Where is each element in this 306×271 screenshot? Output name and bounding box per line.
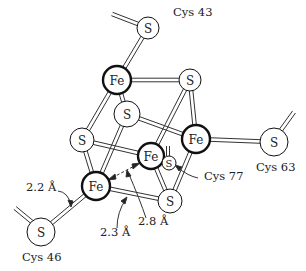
atom-label: S [123,108,131,122]
atom-label: S [166,158,173,169]
fe4s4-cluster-diagram: SFeSSFeSFeSFeSSS Cys 43Cys 63Cys 77Cys 4… [0,0,306,271]
atom-label: S [37,226,45,240]
atom-label: S [186,74,194,88]
iron-atom-fe2: Fe [182,125,210,153]
ligand-label: Cys 77 [204,169,244,183]
atom-label: S [270,136,278,150]
arrowhead-icon [126,170,131,177]
distance-label: 2.8 Å [138,214,169,228]
sulfur-atom-s-cys77: S [162,156,176,170]
sulfur-atom-s-cys46: S [27,218,55,246]
sulfur-atom-s1: S [179,69,201,91]
atom-label: Fe [110,74,125,88]
bonds [14,12,296,233]
sulfur-atom-s2: S [114,101,140,127]
iron-atom-fe4: Fe [82,172,110,200]
structure-drawing: SFeSSFeSFeSFeSSS Cys 43Cys 63Cys 77Cys 4… [0,0,306,271]
atom-label: Fe [89,180,104,194]
arrowhead-icon [121,197,127,204]
atom-label: S [144,22,152,36]
iron-atom-fe3: Fe [138,143,164,169]
arrowhead-icon [132,163,140,169]
iron-atom-fe1: Fe [103,66,131,94]
labels: Cys 43Cys 63Cys 77Cys 462.2 Å2.3 Å2.8 Å [22,5,296,264]
sulfur-atom-s-cys43: S [137,17,159,39]
ligand-label: Cys 43 [173,5,213,19]
distance-label: 2.2 Å [26,180,57,194]
sulfur-atom-s-cys63: S [260,128,288,156]
ligand-label: Cys 63 [256,160,296,174]
atom-label: S [166,195,174,209]
atoms: SFeSSFeSFeSFeSSS [27,17,288,246]
distance-label: 2.3 Å [100,225,131,239]
ligand-label: Cys 46 [22,250,62,264]
atom-label: S [78,134,86,148]
sulfur-atom-s3: S [70,128,94,152]
atom-label: Fe [189,133,204,147]
atom-label: Fe [144,150,159,164]
sulfur-atom-s4: S [158,189,182,213]
